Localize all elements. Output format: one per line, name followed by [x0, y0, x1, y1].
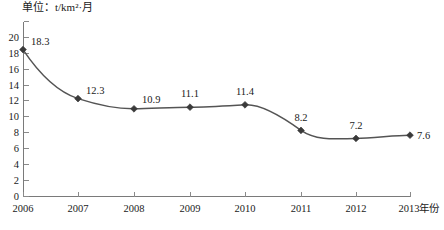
data-point-labels: 18.3 12.3 10.9 11.1 11.4 8.2 7.2 7.6: [31, 36, 430, 141]
data-point-label: 12.3: [86, 85, 104, 96]
x-tick-label: 2011: [291, 203, 312, 214]
chart-container: 单位：t/km²·月 0 2 4 6 8 10 12: [0, 0, 444, 230]
data-point-marker[interactable]: [407, 132, 414, 139]
y-tick-label: 8: [14, 127, 19, 138]
x-tick-label: 2007: [68, 203, 89, 214]
data-point-label: 7.2: [349, 120, 362, 131]
data-point-label: 18.3: [31, 36, 49, 47]
x-tick-label: 2010: [235, 203, 256, 214]
data-point-marker[interactable]: [242, 101, 249, 108]
footer-cropped-text-strip: [0, 222, 444, 230]
data-point-label: 11.4: [236, 86, 255, 97]
x-tick-label: 2008: [124, 203, 145, 214]
y-tick-label: 10: [9, 111, 20, 122]
data-point-marker[interactable]: [75, 95, 82, 102]
y-tick-label: 20: [9, 32, 20, 43]
y-tick-label: 14: [9, 80, 20, 91]
data-point-label: 10.9: [142, 94, 160, 105]
x-axis-ticks: [24, 192, 411, 197]
y-tick-label: 2: [14, 175, 19, 186]
x-tick-label: 2012: [346, 203, 367, 214]
y-tick-label: 18: [9, 48, 20, 59]
x-tick-label: 2009: [180, 203, 201, 214]
data-point-marker[interactable]: [131, 105, 138, 112]
x-axis-title: 年份: [419, 202, 440, 214]
y-tick-label: 0: [14, 191, 19, 202]
line-chart-plot: 0 2 4 6 8 10 12 14 16 18 20 2006 2007: [0, 0, 444, 230]
y-axis-tick-labels: 0 2 4 6 8 10 12 14 16 18 20: [9, 32, 20, 202]
data-point-label: 8.2: [294, 112, 307, 123]
y-tick-label: 16: [9, 64, 20, 75]
data-point-marker[interactable]: [187, 104, 194, 111]
data-point-label: 7.6: [417, 130, 430, 141]
data-point-marker[interactable]: [353, 135, 360, 142]
y-tick-label: 12: [9, 95, 20, 106]
data-point-label: 11.1: [181, 88, 199, 99]
chart-axes: [24, 22, 411, 197]
x-axis-tick-labels: 2006 2007 2008 2009 2010 2011 2012 2013: [13, 203, 420, 214]
x-tick-label: 2013: [399, 203, 420, 214]
y-tick-label: 6: [14, 143, 19, 154]
y-tick-label: 4: [14, 159, 20, 170]
x-tick-label: 2006: [13, 203, 34, 214]
